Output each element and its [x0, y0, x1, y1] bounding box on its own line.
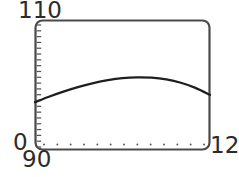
x-axis-tick-dot [70, 144, 72, 146]
x-axis-tick-dot [83, 144, 85, 146]
x-axis-tick-dot [96, 144, 98, 146]
x-axis-tick-dot [176, 144, 178, 146]
y-axis-tick-group [37, 25, 42, 147]
x-axis-tick-group [43, 144, 205, 146]
plot-frame [36, 21, 210, 150]
x-axis-tick-dot [203, 144, 205, 146]
x-axis-tick-dot [123, 144, 125, 146]
plot-frame-group [36, 21, 210, 150]
y-axis-max-label: 110 [18, 0, 62, 22]
x-axis-tick-dot [56, 144, 58, 146]
x-axis-tick-dot [190, 144, 192, 146]
x-axis-tick-dot [136, 144, 138, 146]
chart-container: 110 0 90 12 [0, 0, 239, 177]
x-axis-tick-dot [110, 144, 112, 146]
data-series-curve [35, 77, 210, 102]
x-axis-tick-dot [150, 144, 152, 146]
x-axis-tick-dot [163, 144, 165, 146]
x-axis-max-label: 12 [210, 134, 239, 157]
x-axis-min-label: 90 [22, 148, 51, 171]
